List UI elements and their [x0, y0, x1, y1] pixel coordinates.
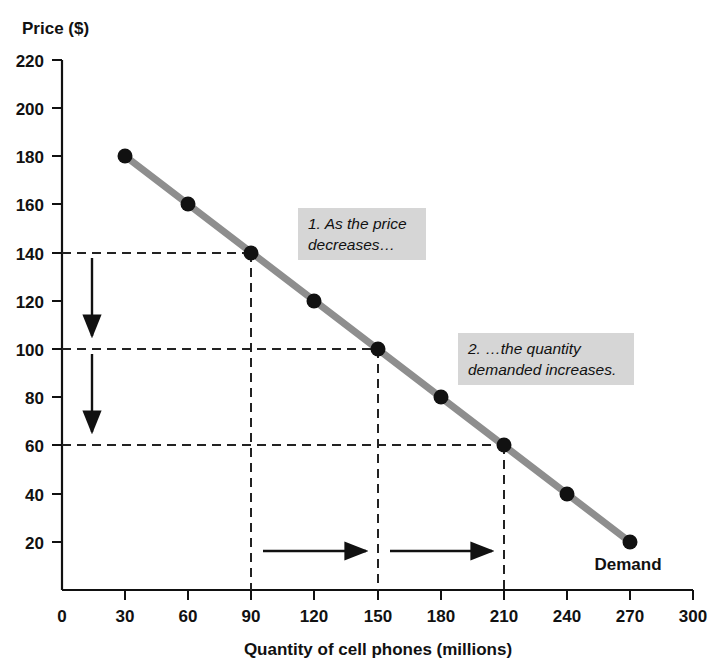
- callout-1-line-2: decreases…: [308, 236, 395, 253]
- x-tick-label: 150: [364, 607, 392, 626]
- x-tick-label: 120: [300, 607, 328, 626]
- x-tick-label: 240: [553, 607, 581, 626]
- data-point: [497, 438, 512, 453]
- data-point: [623, 535, 638, 550]
- y-tick-label: 200: [16, 100, 44, 119]
- callout-2-line-2: demanded increases.: [468, 361, 616, 378]
- x-tick-label: 0: [57, 607, 66, 626]
- demand-series-label: Demand: [594, 555, 661, 574]
- data-point: [371, 342, 386, 357]
- y-axis-title: Price ($): [22, 19, 89, 38]
- data-point: [307, 294, 322, 309]
- demand-curve-figure: Price ($) 220 200 180 160 140 120: [0, 0, 713, 666]
- x-tick-label: 180: [427, 607, 455, 626]
- callout-1-line-1: 1. As the price: [308, 215, 407, 232]
- y-tick-label: 100: [16, 341, 44, 360]
- y-tick-label: 40: [25, 486, 44, 505]
- x-tick-label: 30: [116, 607, 135, 626]
- y-tick-label: 120: [16, 293, 44, 312]
- y-tick-label: 140: [16, 245, 44, 264]
- y-tick-label: 80: [25, 389, 44, 408]
- y-tick-label: 160: [16, 196, 44, 215]
- x-tick-label: 90: [242, 607, 261, 626]
- data-point: [244, 246, 259, 261]
- y-tick-label: 20: [25, 534, 44, 553]
- y-tick-label: 180: [16, 148, 44, 167]
- data-point: [181, 197, 196, 212]
- x-tick-label: 300: [679, 607, 707, 626]
- x-tick-label: 210: [490, 607, 518, 626]
- y-tick-label: 60: [25, 437, 44, 456]
- data-point: [434, 390, 449, 405]
- y-tick-label: 220: [16, 52, 44, 71]
- callout-2-line-1: 2. …the quantity: [467, 340, 582, 357]
- x-axis-title: Quantity of cell phones (millions): [244, 640, 512, 659]
- callout-price-decreases: 1. As the price decreases…: [298, 208, 426, 260]
- data-point: [118, 149, 133, 164]
- data-point: [560, 487, 575, 502]
- callout-quantity-increases: 2. …the quantity demanded increases.: [458, 333, 634, 385]
- x-tick-label: 270: [616, 607, 644, 626]
- x-tick-label: 60: [179, 607, 198, 626]
- demand-curve-chart: Price ($) 220 200 180 160 140 120: [0, 0, 713, 666]
